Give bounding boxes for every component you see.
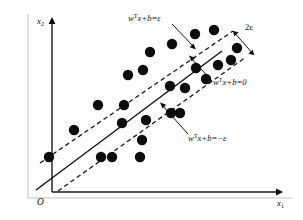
y-axis-arrowhead (49, 17, 56, 24)
lower-margin-label-rest: x+b=−ε (197, 133, 228, 143)
data-point (175, 108, 185, 118)
data-point (166, 108, 176, 118)
x-axis-arrowhead (276, 189, 283, 196)
data-point (201, 74, 211, 84)
data-point (209, 25, 219, 35)
upper-margin-label: wTx+b=ε (128, 12, 161, 23)
data-point (44, 152, 54, 162)
margin-width-label: 2ε (245, 22, 253, 32)
data-point (190, 29, 200, 39)
data-point (123, 70, 133, 80)
data-point (213, 60, 223, 70)
data-point (96, 152, 106, 162)
data-point (180, 83, 190, 93)
figure-container: wTx+b=ε wTx+b=0 wTx+b=−ε 2ε x2 x1 O (0, 0, 303, 220)
data-point (69, 125, 79, 135)
upper-margin-line (40, 31, 233, 163)
data-point (145, 47, 155, 57)
lower-margin-label: wTx+b=−ε (188, 132, 227, 143)
upper-margin-label-rest: x+b=ε (137, 13, 162, 23)
data-point (141, 115, 151, 125)
data-point (138, 65, 148, 75)
data-point (107, 152, 117, 162)
data-point (167, 39, 177, 49)
figure-caption (0, 204, 303, 220)
data-point (226, 55, 236, 65)
axis-group (49, 17, 283, 195)
regression-label: wTx+b=0 (213, 76, 247, 87)
data-point (165, 81, 175, 91)
data-point (119, 100, 129, 110)
data-point (135, 152, 145, 162)
data-point (137, 135, 147, 145)
data-point (191, 63, 201, 73)
regression-label-rest: x+b=0 (222, 77, 248, 87)
y-axis-label: x2 (36, 16, 44, 27)
page-frame (28, 14, 292, 198)
svr-diagram: wTx+b=ε wTx+b=0 wTx+b=−ε 2ε x2 x1 O (0, 0, 303, 220)
data-point (232, 43, 242, 53)
lower-margin-leader (162, 105, 188, 134)
data-point (93, 100, 103, 110)
y-axis-label-sub: 2 (41, 20, 44, 27)
data-point (117, 118, 127, 128)
